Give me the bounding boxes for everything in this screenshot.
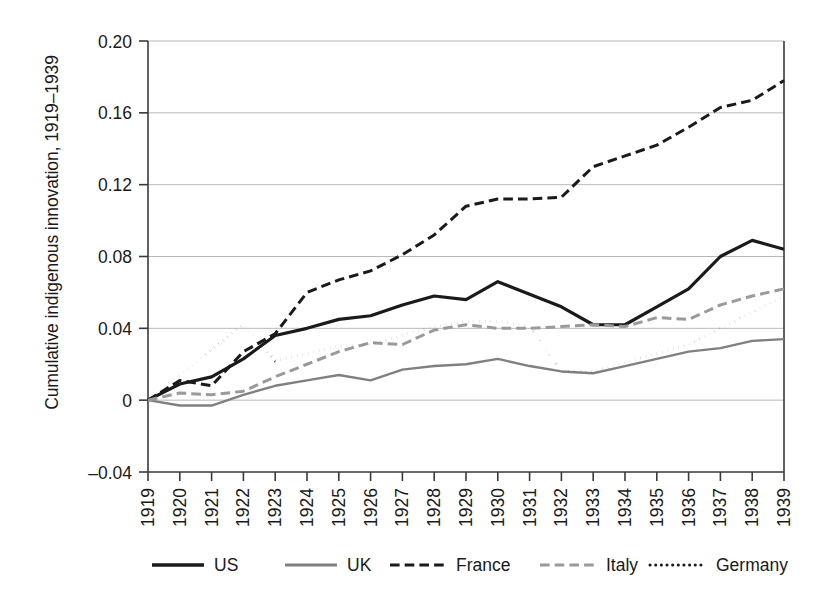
x-tick-label: 1924 (297, 488, 317, 527)
y-tick-label: 0.04 (98, 319, 132, 339)
x-tick-label: 1921 (202, 488, 222, 527)
legend-label-italy: Italy (606, 555, 638, 575)
line-chart: –0.0400.040.080.120.160.20 1919192019211… (0, 0, 823, 603)
x-tick-label: 1927 (392, 488, 412, 527)
y-tick-label: 0 (122, 391, 132, 411)
legend-label-france: France (456, 555, 510, 575)
x-tick-label: 1939 (774, 488, 794, 527)
x-tick-label: 1936 (679, 488, 699, 527)
x-tick-label: 1929 (456, 488, 476, 527)
legend-label-germany: Germany (716, 555, 788, 575)
chart-legend: USUKFranceItalyGermany (152, 555, 788, 575)
series-line-germany (148, 296, 784, 400)
x-tick-label: 1920 (170, 488, 190, 527)
x-tick-label: 1931 (520, 488, 540, 527)
x-axis-ticks: 1919192019211922192319241925192619271928… (138, 472, 794, 527)
x-tick-label: 1934 (615, 488, 635, 527)
chart-figure: Cumulative indigenous innovation, 1919–1… (0, 0, 823, 603)
data-series (148, 81, 784, 406)
x-tick-label: 1928 (424, 488, 444, 527)
x-tick-label: 1926 (361, 488, 381, 527)
x-tick-label: 1925 (329, 488, 349, 527)
series-line-us (148, 240, 784, 400)
x-tick-label: 1935 (647, 488, 667, 527)
y-tick-label: 0.08 (98, 247, 132, 267)
series-line-italy (148, 289, 784, 400)
x-tick-label: 1937 (710, 488, 730, 527)
y-tick-label: 0.16 (98, 103, 132, 123)
legend-label-uk: UK (347, 555, 372, 575)
x-tick-label: 1923 (265, 488, 285, 527)
x-tick-label: 1938 (742, 488, 762, 527)
series-line-uk (148, 339, 784, 405)
x-tick-label: 1922 (233, 488, 253, 527)
x-tick-label: 1932 (551, 488, 571, 527)
legend-label-us: US (214, 555, 238, 575)
y-tick-label: 0.20 (98, 32, 132, 52)
gridlines (148, 41, 784, 400)
y-axis-ticks: –0.0400.040.080.120.160.20 (88, 32, 148, 483)
x-tick-label: 1930 (488, 488, 508, 527)
x-tick-label: 1919 (138, 488, 158, 527)
x-tick-label: 1933 (583, 488, 603, 527)
y-tick-label: –0.04 (88, 463, 132, 483)
y-tick-label: 0.12 (98, 175, 132, 195)
